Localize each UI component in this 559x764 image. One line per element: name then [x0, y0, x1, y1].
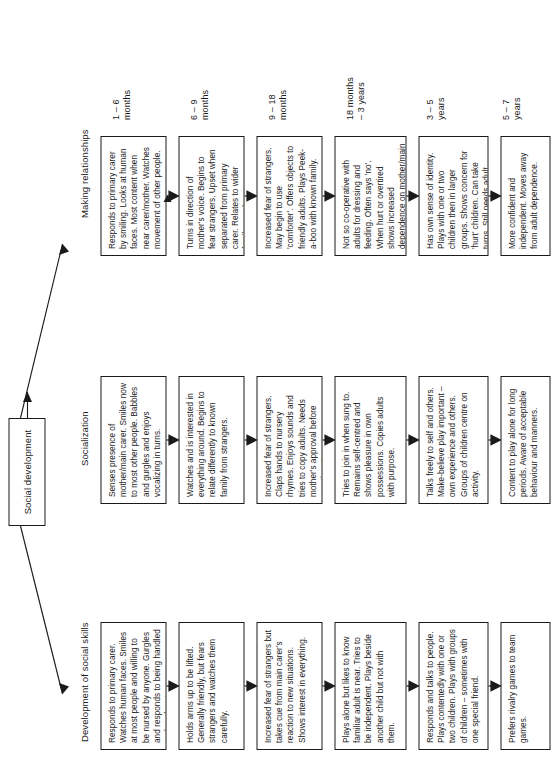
- arrowhead: [491, 435, 501, 445]
- arrowhead: [169, 191, 179, 201]
- arrowhead: [491, 681, 501, 691]
- arrowhead: [325, 191, 335, 201]
- arrowhead: [325, 681, 335, 691]
- arrowhead: [247, 191, 257, 201]
- arrowhead: [247, 435, 257, 445]
- arrowhead: [491, 191, 501, 201]
- arrowhead: [409, 435, 419, 445]
- diagram-canvas: Social development Making relationships …: [0, 0, 559, 764]
- arrowhead: [409, 681, 419, 691]
- arrowhead: [409, 191, 419, 201]
- arrowhead: [325, 435, 335, 445]
- rotated-diagram-stage: Social development Making relationships …: [0, 0, 559, 764]
- arrowhead: [247, 681, 257, 691]
- row-flow-arrows: [0, 0, 559, 764]
- arrowhead: [169, 681, 179, 691]
- arrowhead: [169, 435, 179, 445]
